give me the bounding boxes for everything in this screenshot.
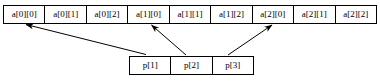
arrow-p3-to-a20 xyxy=(228,25,272,55)
array-a: a[0][0] a[0][1] a[0][2] a[1][0] a[1][1] … xyxy=(3,5,377,24)
array-p: p[1] p[2] p[3] xyxy=(129,56,254,75)
array-a-cell: a[1][0] xyxy=(128,6,169,23)
array-a-cell: a[2][0] xyxy=(253,6,294,23)
arrow-p1-to-a00 xyxy=(26,25,146,55)
array-a-cell: a[0][2] xyxy=(87,6,128,23)
array-a-cell: a[2][2] xyxy=(336,6,376,23)
pointer-array-diagram: a[0][0] a[0][1] a[0][2] a[1][0] a[1][1] … xyxy=(0,0,380,81)
array-a-cell: a[1][1] xyxy=(170,6,211,23)
array-a-cell: a[2][1] xyxy=(294,6,335,23)
array-p-cell: p[3] xyxy=(213,57,253,74)
array-a-cell: a[0][1] xyxy=(45,6,86,23)
array-p-cell: p[1] xyxy=(130,57,171,74)
array-a-cell: a[0][0] xyxy=(4,6,45,23)
array-a-cell: a[1][2] xyxy=(211,6,252,23)
arrow-p2-to-a10 xyxy=(152,25,187,55)
array-p-cell: p[2] xyxy=(171,57,212,74)
